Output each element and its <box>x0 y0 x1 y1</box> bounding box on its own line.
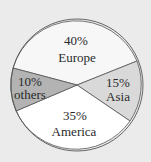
others-name-label: others <box>14 87 46 102</box>
europe-pct-label: 40% <box>64 33 88 48</box>
america-pct-label: 35% <box>63 108 87 123</box>
pie-chart: 40% Europe 15% Asia 35% America 10% othe… <box>0 0 151 162</box>
europe-name-label: Europe <box>58 50 96 65</box>
asia-pct-label: 15% <box>106 75 130 90</box>
asia-name-label: Asia <box>106 89 130 104</box>
america-name-label: America <box>52 124 97 139</box>
